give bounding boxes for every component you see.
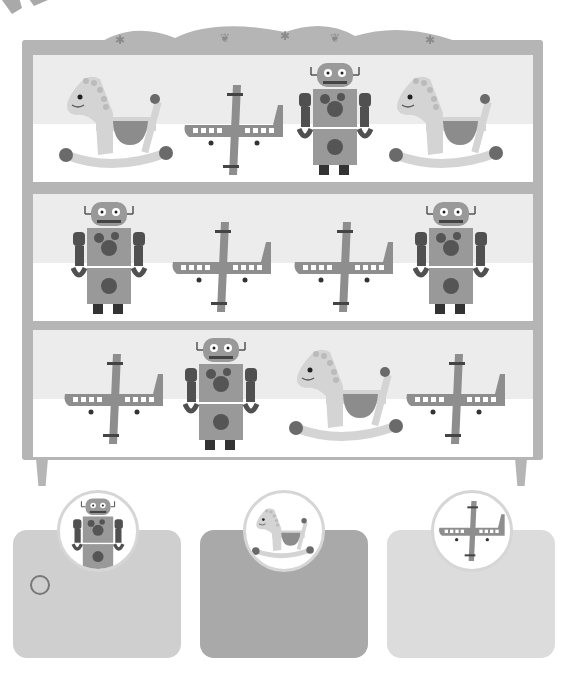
airplane-icon xyxy=(63,354,168,449)
shelf-leg-right xyxy=(515,458,527,486)
airplane-icon xyxy=(293,222,398,317)
rocking-horse-icon xyxy=(58,73,178,173)
robot-icon xyxy=(413,202,493,317)
shelf-row-2 xyxy=(33,194,533,321)
svg-text:❦: ❦ xyxy=(220,31,230,45)
shelf-crown-decoration: ✱ ❦ ✱ ❦ ✱ xyxy=(85,18,485,54)
robot-icon xyxy=(60,493,136,569)
svg-text:✱: ✱ xyxy=(280,29,290,43)
rocking-horse-icon xyxy=(288,346,408,446)
shelf-row-3 xyxy=(33,330,533,457)
svg-text:❦: ❦ xyxy=(330,31,340,45)
robot-icon xyxy=(183,338,263,453)
airplane-badge xyxy=(431,490,513,572)
corner-decoration xyxy=(0,0,60,28)
svg-text:✱: ✱ xyxy=(115,33,125,47)
shelf-row-1 xyxy=(33,55,533,182)
rocking-horse-badge xyxy=(243,490,325,572)
tally-circle-mark[interactable] xyxy=(30,575,50,595)
airplane-icon xyxy=(171,222,276,317)
robot-badge xyxy=(57,490,139,572)
airplane-icon xyxy=(405,354,510,449)
robot-icon xyxy=(71,202,151,317)
airplane-icon xyxy=(183,85,288,180)
airplane-icon xyxy=(434,493,510,569)
rocking-horse-icon xyxy=(388,73,508,173)
shelf-leg-left xyxy=(36,458,48,486)
rocking-horse-icon xyxy=(246,493,322,569)
svg-text:✱: ✱ xyxy=(425,33,435,47)
robot-icon xyxy=(297,63,377,178)
